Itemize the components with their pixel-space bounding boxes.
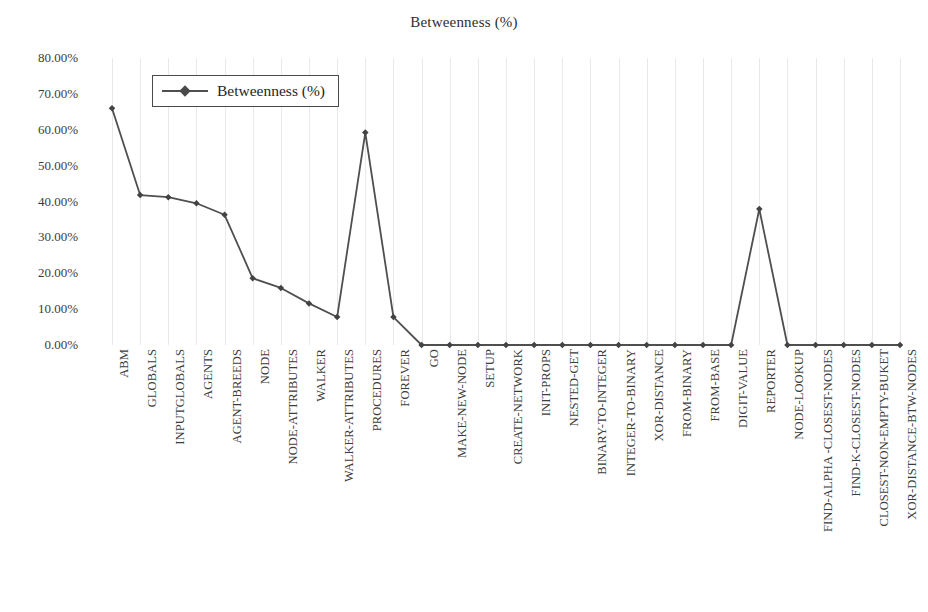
y-axis: 0.00%10.00%20.00%30.00%40.00%50.00%60.00… bbox=[0, 58, 84, 345]
x-axis-tick-label: FROM-BINARY bbox=[680, 349, 695, 437]
series-line bbox=[112, 108, 900, 345]
legend: Betweenness (%) bbox=[152, 75, 339, 107]
x-axis-tick-label: FIND-ALPHA -CLOSEST-NODES bbox=[821, 349, 836, 532]
x-axis-tick-label: NODE-LOOKUP bbox=[792, 349, 807, 440]
x-axis-tick-label: WALKER bbox=[314, 349, 329, 402]
data-point-marker bbox=[587, 342, 594, 349]
x-axis: ABMGLOBALSINPUTGLOBALSAGENTSAGENT-BREEDS… bbox=[92, 349, 910, 611]
x-axis-tick-label: INTEGER-TO-BINARY bbox=[624, 349, 639, 476]
x-axis-tick-label: BINARY-TO-INTEGER bbox=[595, 349, 610, 475]
x-axis-tick-label: GO bbox=[427, 349, 442, 367]
x-axis-tick-label: XOR-DISTANCE-BTW-NODES bbox=[905, 349, 920, 520]
x-axis-tick-label: DIGIT-VALUE bbox=[736, 349, 751, 428]
data-point-marker bbox=[840, 342, 847, 349]
data-point-marker bbox=[193, 200, 200, 207]
data-point-marker bbox=[503, 342, 510, 349]
y-axis-tick-label: 30.00% bbox=[38, 229, 78, 245]
data-point-marker bbox=[615, 342, 622, 349]
y-axis-tick-label: 10.00% bbox=[38, 301, 78, 317]
data-point-marker bbox=[869, 342, 876, 349]
x-axis-tick-label: FROM-BASE bbox=[708, 349, 723, 421]
data-point-marker bbox=[137, 192, 144, 199]
data-point-marker bbox=[278, 285, 285, 292]
betweenness-line-chart: Betweenness (%) 0.00%10.00%20.00%30.00%4… bbox=[0, 0, 928, 612]
data-point-marker bbox=[672, 342, 679, 349]
data-point-marker bbox=[643, 342, 650, 349]
x-axis-tick-label: INPUTGLOBALS bbox=[173, 349, 188, 445]
data-point-marker bbox=[165, 194, 172, 201]
x-axis-tick-label: CREATE-NETWORK bbox=[511, 349, 526, 464]
data-point-marker bbox=[784, 342, 791, 349]
x-axis-tick-label: WALKER-ATTRIBUTES bbox=[342, 349, 357, 482]
y-axis-tick-label: 70.00% bbox=[38, 86, 78, 102]
y-axis-tick-label: 80.00% bbox=[38, 50, 78, 66]
x-axis-tick-label: NODE-ATTRIBUTES bbox=[286, 349, 301, 464]
x-axis-tick-label: REPORTER bbox=[764, 349, 779, 413]
x-axis-tick-label: SETUP bbox=[483, 349, 498, 388]
x-axis-tick-label: XOR-DISTANCE bbox=[652, 349, 667, 442]
data-point-marker bbox=[475, 342, 482, 349]
data-point-marker bbox=[221, 212, 228, 219]
data-point-marker bbox=[249, 275, 256, 282]
y-axis-tick-label: 60.00% bbox=[38, 122, 78, 138]
chart-title: Betweenness (%) bbox=[0, 14, 928, 31]
x-axis-tick-label: MAKE-NEW-NODE bbox=[455, 349, 470, 458]
y-axis-tick-label: 50.00% bbox=[38, 158, 78, 174]
x-axis-tick-label: NODE bbox=[258, 349, 273, 384]
x-axis-tick-label: ABM bbox=[117, 349, 132, 378]
x-axis-tick-label: CLOSEST-NON-EMPTY-BUKET bbox=[877, 349, 892, 527]
data-point-marker bbox=[446, 342, 453, 349]
y-axis-tick-label: 20.00% bbox=[38, 265, 78, 281]
data-point-marker bbox=[728, 342, 735, 349]
data-point-marker bbox=[756, 206, 763, 213]
legend-line-marker-icon bbox=[162, 85, 208, 97]
data-point-marker bbox=[531, 342, 538, 349]
legend-label: Betweenness (%) bbox=[217, 82, 325, 100]
data-point-marker bbox=[334, 314, 341, 321]
data-point-marker bbox=[362, 129, 369, 136]
data-point-marker bbox=[559, 342, 566, 349]
x-axis-tick-label: AGENTS bbox=[201, 349, 216, 399]
x-axis-tick-label: FIND-K-CLOSEST-NODES bbox=[849, 349, 864, 496]
x-axis-tick-label: NESTED-GET bbox=[567, 349, 582, 426]
data-point-marker bbox=[812, 342, 819, 349]
x-axis-tick-label: FOREVER bbox=[398, 349, 413, 407]
y-axis-tick-label: 0.00% bbox=[44, 337, 78, 353]
x-axis-tick-label: GLOBALS bbox=[145, 349, 160, 407]
data-point-marker bbox=[306, 300, 313, 307]
x-axis-tick-label: INIT-PROPS bbox=[539, 349, 554, 416]
data-point-marker bbox=[897, 342, 904, 349]
data-point-marker bbox=[109, 105, 116, 112]
y-axis-tick-label: 40.00% bbox=[38, 194, 78, 210]
data-point-marker bbox=[700, 342, 707, 349]
x-axis-tick-label: AGENT-BREEDS bbox=[230, 349, 245, 444]
x-axis-tick-label: PROCEDURES bbox=[370, 349, 385, 431]
